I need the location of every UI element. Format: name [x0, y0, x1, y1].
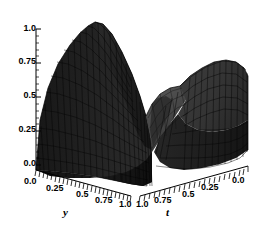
t-tick-label-5: 0.0 — [232, 176, 245, 185]
t-tick-label-3: 0.5 — [182, 190, 195, 199]
surface-plot-figure: 1.0 0.75 0.5 0.25 0.0 0.0 0.25 0.5 0.75 … — [0, 0, 262, 227]
plot-canvas — [0, 0, 262, 227]
t-tick-label-1: 1.0 — [136, 200, 149, 209]
z-tick-label-5: 0.0 — [14, 159, 36, 168]
t-tick-label-4: 0.25 — [201, 183, 219, 192]
z-tick-label-1: 1.0 — [14, 24, 36, 33]
y-tick-label-2: 0.25 — [46, 184, 64, 193]
y-tick-label-3: 0.5 — [76, 190, 89, 199]
y-tick-label-1: 0.0 — [24, 177, 37, 186]
surface-mesh-group — [36, 22, 248, 186]
y-axis-title: y — [63, 207, 68, 218]
y-tick-label-5: 1.0 — [119, 200, 132, 209]
y-tick-label-4: 0.75 — [95, 196, 113, 205]
z-tick-label-2: 0.75 — [8, 57, 36, 66]
t-tick-label-2: 0.75 — [154, 196, 172, 205]
z-tick-label-4: 0.25 — [8, 125, 36, 134]
z-tick-label-3: 0.5 — [14, 91, 36, 100]
t-axis-title: t — [166, 207, 169, 218]
